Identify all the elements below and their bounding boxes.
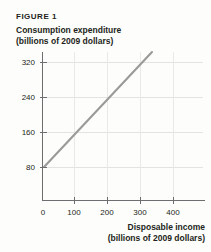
x-tick-label-100: 100	[67, 208, 80, 217]
x-tick-label-200: 200	[100, 208, 113, 217]
y-tick-label-320: 320	[22, 58, 35, 67]
plot-area: 320 240 160 80 0 100 200 300 400	[43, 52, 203, 201]
y-tick-80: 80	[40, 167, 47, 168]
y-axis-title-line1: Consumption expenditure	[16, 25, 121, 35]
x-tick-label-400: 400	[166, 208, 179, 217]
y-tick-240: 240	[40, 97, 47, 98]
y-tick-label-240: 240	[22, 93, 35, 102]
x-tick-label-300: 300	[133, 208, 146, 217]
x-axis-title: Disposable income (billions of 2009 doll…	[5, 222, 205, 244]
y-tick-320: 320	[40, 62, 47, 63]
y-tick-label-80: 80	[26, 163, 35, 172]
x-tick-300	[140, 197, 141, 204]
x-tick-400	[173, 197, 174, 204]
y-axis-line	[42, 52, 43, 201]
figure-container: FIGURE 1 Consumption expenditure (billio…	[0, 0, 211, 252]
consumption-function-line	[37, 46, 211, 212]
y-tick-160: 160	[40, 132, 47, 133]
figure-number-label: FIGURE 1	[16, 12, 57, 21]
x-tick-200	[107, 197, 108, 204]
x-axis-title-line1: Disposable income	[128, 222, 205, 232]
x-axis-line	[42, 200, 205, 201]
x-axis-title-line2: (billions of 2009 dollars)	[5, 233, 205, 244]
y-axis-title: Consumption expenditure (billions of 200…	[16, 25, 121, 47]
x-tick-100	[74, 197, 75, 204]
y-tick-label-160: 160	[22, 128, 35, 137]
x-tick-label-0: 0	[41, 208, 45, 217]
